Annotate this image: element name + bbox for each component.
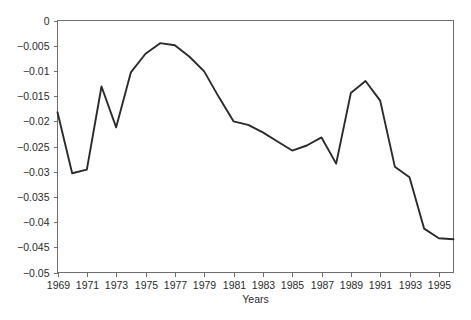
y-axis-tick-group: 0−0.005−0.01−0.015−0.02−0.025−0.03−0.035… [17, 15, 57, 279]
line-chart-figure: 0−0.005−0.01−0.015−0.02−0.025−0.03−0.035… [0, 0, 471, 320]
y-tick-label: −0.04 [23, 216, 50, 228]
x-tick-label: 1969 [47, 279, 71, 291]
axis-frame [58, 21, 454, 273]
x-tick-label: 1991 [369, 279, 393, 291]
y-tick-label: −0.015 [17, 90, 50, 102]
x-tick-label: 1985 [281, 279, 305, 291]
x-tick-label: 1971 [76, 279, 100, 291]
x-tick-label: 1993 [399, 279, 423, 291]
y-tick-label: −0.03 [23, 166, 50, 178]
data-series-line [58, 43, 454, 239]
y-tick-label: −0.025 [17, 141, 50, 153]
x-axis-title: Years [242, 293, 268, 305]
x-tick-label: 1981 [223, 279, 247, 291]
x-tick-label: 1987 [311, 279, 335, 291]
y-tick-label: −0.045 [17, 241, 50, 253]
x-tick-label: 1989 [340, 279, 364, 291]
x-tick-label: 1983 [252, 279, 276, 291]
x-tick-label: 1979 [193, 279, 217, 291]
y-tick-label: −0.005 [17, 40, 50, 52]
x-tick-label: 1973 [105, 279, 129, 291]
y-tick-label: −0.05 [23, 267, 50, 279]
x-axis-tick-group: 1969197119731975197719791981198319851987… [47, 273, 452, 291]
x-tick-label: 1977 [164, 279, 188, 291]
y-tick-label: 0 [44, 15, 50, 27]
x-tick-label: 1975 [135, 279, 159, 291]
y-tick-label: −0.01 [23, 65, 50, 77]
x-tick-label: 1995 [428, 279, 452, 291]
y-tick-label: −0.035 [17, 191, 50, 203]
y-tick-label: −0.02 [23, 115, 50, 127]
chart-canvas: 0−0.005−0.01−0.015−0.02−0.025−0.03−0.035… [0, 0, 471, 320]
